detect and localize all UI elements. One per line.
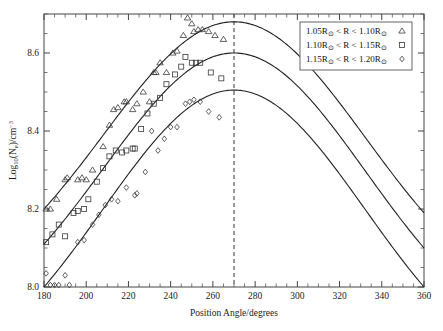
legend: 1.05R⊙ < R < 1.10R⊙1.10R⊙ < R < 1.15R⊙1.…	[300, 22, 412, 70]
legend-entry-label: 1.10R⊙ < R < 1.15R⊙	[306, 40, 387, 51]
figure-container: 180200220240260280300320340360 8.08.28.4…	[0, 0, 443, 331]
y-axis-label-group: Log10(Ne)/cm−3	[7, 121, 19, 180]
x-axis-label-text: Position Angle/degrees	[190, 308, 278, 318]
x-tick-label: 220	[121, 291, 136, 301]
x-tick-label: 180	[37, 291, 52, 301]
y-tick-label: 8.2	[27, 204, 39, 214]
x-tick-label: 200	[79, 291, 94, 301]
x-tick-label: 300	[290, 291, 305, 301]
x-axis-label: Position Angle/degrees	[190, 308, 278, 318]
y-tick-label: 8.6	[27, 48, 39, 58]
y-tick-label: 8.4	[27, 126, 39, 136]
x-tick-label: 320	[332, 291, 347, 301]
x-tick-label: 340	[375, 291, 390, 301]
legend-entry-label: 1.05R⊙ < R < 1.10R⊙	[306, 26, 387, 37]
x-tick-label: 240	[164, 291, 179, 301]
x-tick-label: 280	[248, 291, 263, 301]
scatter-plot: 180200220240260280300320340360 8.08.28.4…	[0, 0, 443, 331]
x-tick-label: 360	[417, 291, 432, 301]
y-axis-label-text: Log10(Ne)/cm−3	[7, 121, 19, 180]
y-tick-label: 8.0	[27, 282, 39, 292]
x-tick-label: 260	[206, 291, 221, 301]
legend-entry-label: 1.15R⊙ < R < 1.20R⊙	[306, 54, 387, 65]
y-axis-label: Log10(Ne)/cm−3	[7, 121, 19, 180]
